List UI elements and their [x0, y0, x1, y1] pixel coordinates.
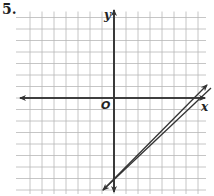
graph-line — [103, 88, 211, 190]
graph-line-upper — [103, 85, 207, 190]
coordinate-graph: y x O — [0, 0, 214, 196]
x-axis-label: x — [200, 100, 209, 114]
origin-label: O — [101, 99, 110, 112]
grid — [16, 12, 206, 195]
y-axis-label: y — [103, 8, 112, 22]
